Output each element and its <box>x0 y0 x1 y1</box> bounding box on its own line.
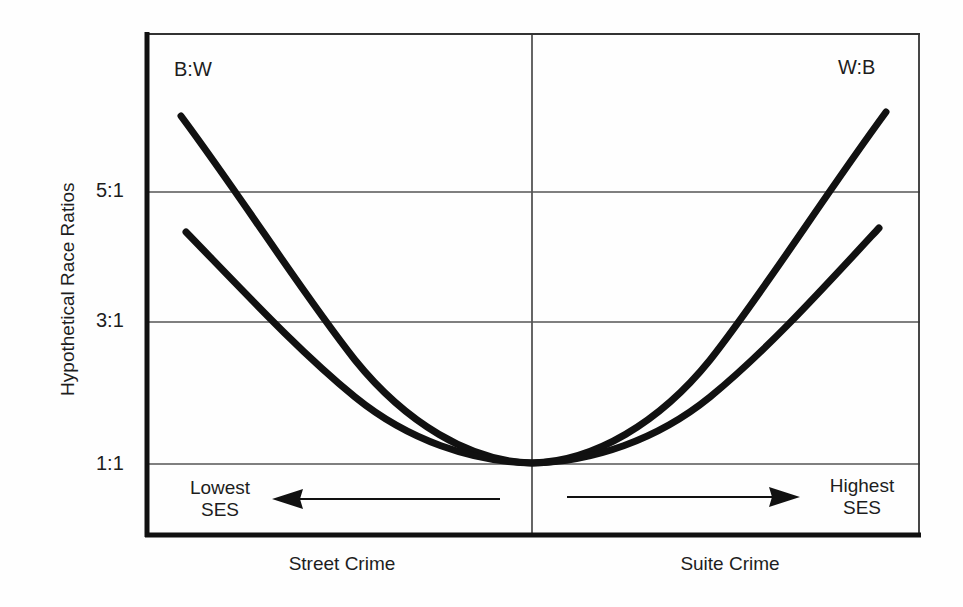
y-axis-title: Hypothetical Race Ratios <box>57 159 79 419</box>
chart-figure: Hypothetical Race Ratios 5:1 3:1 1:1 B:W… <box>0 0 963 607</box>
y-tick-label-5to1: 5:1 <box>96 179 124 203</box>
x-axis-label-suite-crime: Suite Crime <box>620 553 840 575</box>
y-tick-label-1to1: 1:1 <box>96 452 124 476</box>
x-axis-label-street-crime: Street Crime <box>232 553 452 575</box>
lowest-ses-label: Lowest SES <box>172 477 268 522</box>
y-tick-label-3to1: 3:1 <box>96 309 124 333</box>
series-label-white-to-black: W:B <box>838 56 875 80</box>
highest-ses-label: Highest SES <box>812 475 912 520</box>
series-label-black-to-white: B:W <box>174 58 212 82</box>
